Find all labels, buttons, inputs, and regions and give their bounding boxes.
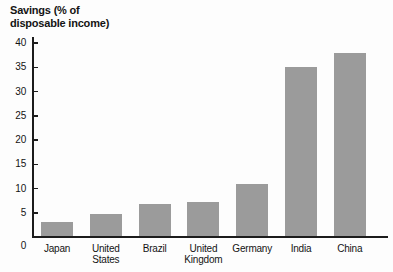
y-tick bbox=[33, 188, 38, 190]
y-tick-label: 25 bbox=[0, 110, 26, 122]
bar-brazil bbox=[139, 204, 171, 237]
y-tick bbox=[33, 115, 38, 117]
category-label-china: China bbox=[320, 243, 380, 254]
savings-bar-chart: Savings (% of disposable income) 0510152… bbox=[0, 0, 393, 272]
y-tick-label: 0 bbox=[0, 240, 26, 252]
bar-china bbox=[334, 53, 366, 237]
bar-india bbox=[285, 67, 317, 237]
y-tick bbox=[33, 42, 38, 44]
y-tick-label: 15 bbox=[0, 158, 26, 170]
chart-title: Savings (% of disposable income) bbox=[10, 4, 109, 30]
x-axis-line bbox=[32, 236, 388, 238]
y-tick bbox=[33, 212, 38, 214]
y-tick-label: 10 bbox=[0, 183, 26, 195]
y-tick-label: 20 bbox=[0, 134, 26, 146]
bar-japan bbox=[41, 222, 73, 237]
y-tick bbox=[33, 67, 38, 69]
y-tick-label: 30 bbox=[0, 86, 26, 98]
y-tick bbox=[33, 139, 38, 141]
bar-germany bbox=[236, 184, 268, 237]
y-tick bbox=[33, 164, 38, 166]
bar-united-kingdom bbox=[187, 202, 219, 237]
y-tick-label: 5 bbox=[0, 207, 26, 219]
y-tick bbox=[33, 91, 38, 93]
y-tick-label: 40 bbox=[0, 37, 26, 49]
y-tick-label: 35 bbox=[0, 61, 26, 73]
bar-united-states bbox=[90, 214, 122, 237]
y-axis-line bbox=[32, 37, 34, 238]
